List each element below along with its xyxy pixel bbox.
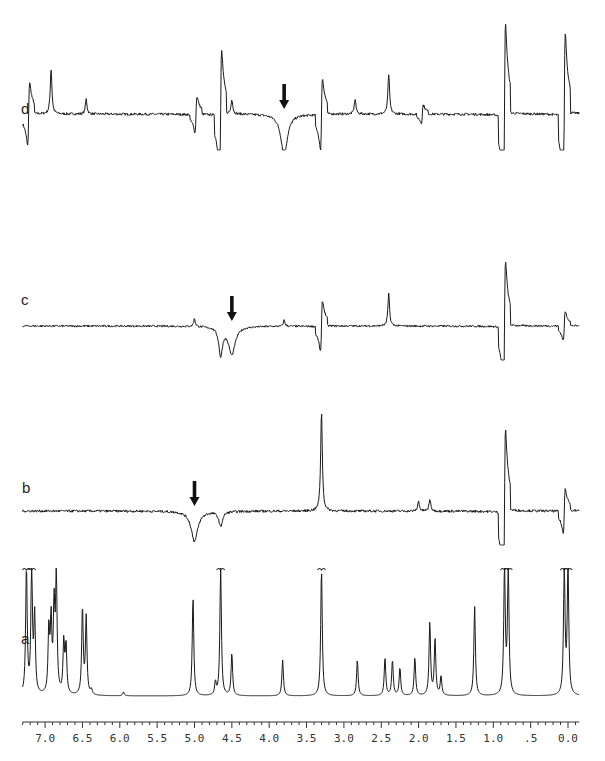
tick-label: 4.0 — [259, 732, 279, 745]
tick-label: 3.0 — [334, 732, 354, 745]
tick-label: 5.0 — [185, 732, 205, 745]
panel-label-b: b — [22, 479, 30, 496]
spectrum-trace-c — [23, 262, 580, 360]
nmr-figure: 7.06.56.05.55.04.54.03.53.02.52.01.51.0.… — [0, 0, 605, 761]
spectrum-trace-d — [23, 24, 580, 150]
panel-label-d: d — [21, 100, 29, 117]
down-arrow-icon — [227, 296, 237, 321]
tick-label: 2.0 — [409, 732, 429, 745]
tick-label: 7.0 — [35, 732, 55, 745]
tick-label: .5 — [524, 732, 537, 745]
nmr-spectra-plot: 7.06.56.05.55.04.54.03.53.02.52.01.51.0.… — [0, 0, 605, 761]
irradiation-arrows — [190, 84, 290, 506]
tick-label: 2.5 — [371, 732, 391, 745]
tick-label: 5.5 — [147, 732, 167, 745]
tick-label: 6.5 — [73, 732, 93, 745]
tick-label: 4.5 — [222, 732, 242, 745]
clipped-peak-mark — [317, 569, 325, 571]
panel-label-c: c — [21, 291, 29, 308]
tick-label: 6.0 — [110, 732, 130, 745]
tick-label: 1.0 — [483, 732, 503, 745]
ppm-axis: 7.06.56.05.55.04.54.03.53.02.52.01.51.0.… — [23, 722, 580, 745]
tick-label: 1.5 — [446, 732, 466, 745]
down-arrow-icon — [190, 481, 200, 506]
spectrum-trace-a — [23, 568, 580, 696]
tick-label: 0.0 — [558, 732, 578, 745]
tick-label: 3.5 — [297, 732, 317, 745]
down-arrow-icon — [279, 84, 289, 109]
panel-label-a: a — [21, 630, 29, 647]
spectrum-traces — [22, 24, 579, 695]
spectrum-trace-b — [23, 414, 580, 545]
